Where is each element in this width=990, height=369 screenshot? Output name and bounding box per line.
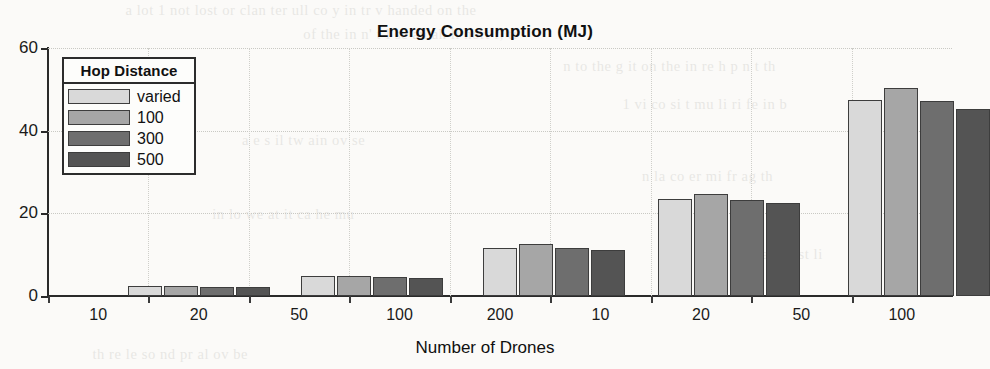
- bar-varied-10: [128, 286, 162, 296]
- legend-label-300: 300: [137, 131, 164, 147]
- bar-100-100: [694, 194, 728, 297]
- legend-item-500[interactable]: 500: [68, 149, 194, 170]
- bar-100-50: [519, 244, 553, 296]
- bar-varied-100: [658, 199, 692, 296]
- legend-swatch-100: [68, 110, 130, 125]
- y-tick-label-0: 0: [4, 287, 38, 304]
- bar-500-200: [956, 109, 990, 296]
- legend-swatch-varied: [68, 89, 130, 104]
- bar-500-10: [236, 287, 270, 296]
- x-tick-2: [249, 296, 251, 303]
- legend-items: varied100300500: [64, 84, 194, 173]
- bar-varied-50: [483, 248, 517, 296]
- x-tick-5: [550, 296, 552, 303]
- x-tick-1: [148, 296, 150, 303]
- bar-300-200: [920, 101, 954, 296]
- bar-varied-20: [301, 276, 335, 296]
- x-tick-label-4: 200: [487, 306, 514, 324]
- gridline-y-20: [48, 213, 952, 215]
- y-tick-label-40: 40: [4, 122, 38, 139]
- chart-title: Energy Consumption (MJ): [0, 22, 970, 42]
- x-tick-label-3: 100: [386, 306, 413, 324]
- bar-500-100: [766, 203, 800, 296]
- x-tick-label-6: 20: [692, 306, 710, 324]
- bar-500-50: [591, 250, 625, 296]
- bar-300-10: [200, 287, 234, 296]
- bar-300-50: [555, 248, 589, 296]
- x-tick-label-1: 20: [190, 306, 208, 324]
- x-axis-title: Number of Drones: [0, 338, 970, 358]
- gridline-x-6: [651, 48, 653, 296]
- legend-item-varied[interactable]: varied: [68, 86, 194, 107]
- gridline-x-2: [249, 48, 251, 296]
- bar-300-100: [730, 200, 764, 296]
- bar-300-20: [373, 277, 407, 296]
- x-tick-4: [450, 296, 452, 303]
- x-tick-label-7: 50: [792, 306, 810, 324]
- x-tick-6: [651, 296, 653, 303]
- legend-label-varied: varied: [137, 89, 181, 105]
- x-tick-3: [349, 296, 351, 303]
- legend-title: Hop Distance: [64, 59, 194, 84]
- x-tick-label-5: 10: [592, 306, 610, 324]
- bar-500-20: [409, 278, 443, 296]
- bar-100-10: [164, 286, 198, 296]
- x-tick-label-2: 50: [290, 306, 308, 324]
- bar-100-20: [337, 276, 371, 296]
- y-tick-label-20: 20: [4, 204, 38, 221]
- legend-swatch-300: [68, 131, 130, 146]
- legend-item-100[interactable]: 100: [68, 107, 194, 128]
- legend-item-300[interactable]: 300: [68, 128, 194, 149]
- y-tick-label-60: 60: [4, 39, 38, 56]
- x-tick-label-0: 10: [89, 306, 107, 324]
- x-tick-7: [751, 296, 753, 303]
- legend-label-100: 100: [137, 110, 164, 126]
- gridline-x-3: [349, 48, 351, 296]
- x-tick-label-8: 100: [888, 306, 915, 324]
- gridline-x-4: [450, 48, 452, 296]
- bar-varied-200: [848, 100, 882, 296]
- y-axis-tick-labels: 0204060: [0, 0, 38, 369]
- gridline-y-60: [48, 48, 952, 50]
- x-tick-8: [852, 296, 854, 303]
- legend[interactable]: Hop Distance varied100300500: [62, 57, 196, 175]
- legend-label-500: 500: [137, 152, 164, 168]
- legend-swatch-500: [68, 152, 130, 167]
- x-tick-0: [48, 296, 50, 303]
- bar-100-200: [884, 88, 918, 296]
